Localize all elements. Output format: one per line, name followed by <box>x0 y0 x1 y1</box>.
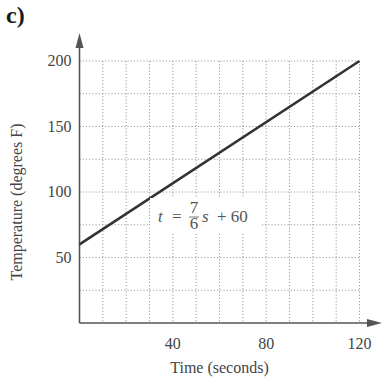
y-tick-label: 50 <box>56 249 72 266</box>
x-tick-label: 120 <box>348 335 372 352</box>
x-axis-arrow-icon <box>367 319 382 327</box>
line-chart: 501001502004080120Time (seconds)Temperat… <box>0 0 382 382</box>
x-tick-label: 40 <box>165 335 181 352</box>
equation-equals: = <box>172 207 182 226</box>
equation-constant: + 60 <box>217 207 248 226</box>
y-tick-label: 100 <box>48 183 72 200</box>
y-axis-arrow-icon <box>76 33 84 48</box>
x-tick-label: 80 <box>258 335 274 352</box>
equation-variable: s <box>202 207 209 226</box>
equation-denominator: 6 <box>190 214 199 233</box>
y-tick-label: 150 <box>48 118 72 135</box>
y-tick-label: 200 <box>48 52 72 69</box>
x-axis-label: Time (seconds) <box>170 359 269 377</box>
y-axis-label: Temperature (degrees F) <box>8 123 26 280</box>
